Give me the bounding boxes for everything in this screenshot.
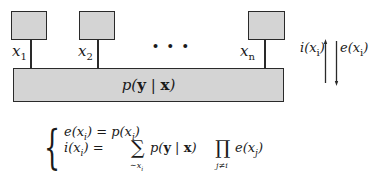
factor-node: p(y | x) [13, 68, 284, 102]
left-brace: { [44, 124, 60, 170]
variable-label-2: x2 [78, 42, 93, 62]
product-subscript: j≠i [216, 161, 228, 170]
sum-symbol: ∑ [131, 136, 145, 158]
sum-subscript: ∼xi [130, 161, 143, 172]
equation-line-2: i(xi) = [64, 140, 104, 158]
outgoing-message-label: e(xi) [340, 40, 368, 58]
ellipsis: • • • [152, 40, 191, 53]
variable-node-n [248, 11, 285, 40]
edge-1 [30, 39, 32, 69]
variable-node-2 [79, 11, 115, 40]
variable-label-1: x1 [12, 42, 27, 62]
variable-label-n: xn [240, 42, 255, 62]
variable-node-1 [11, 11, 47, 40]
equation-line-1: e(xi) = p(xi) [64, 124, 140, 142]
product-term: e(xj) [235, 140, 263, 158]
factor-label: p(y | x) [122, 76, 176, 94]
edge-n [264, 39, 266, 69]
product-symbol: ∏ [215, 136, 230, 158]
sum-term: p(y | x) [150, 140, 196, 155]
edge-2 [97, 39, 99, 69]
